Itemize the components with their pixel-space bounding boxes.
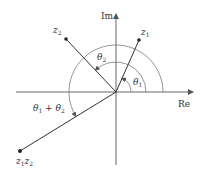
- z1z2-vector: [20, 92, 116, 151]
- theta1-arc: [122, 78, 131, 92]
- z2-vector: [66, 39, 116, 92]
- theta-sum-label: θ1 + θ2: [33, 104, 65, 114]
- z1z2-point: [18, 149, 22, 153]
- z1-point: [137, 38, 141, 42]
- imaginary-axis-label: Im: [101, 12, 113, 21]
- diagram-canvas: [0, 0, 203, 174]
- z2-point: [64, 37, 68, 41]
- z2-label: z2: [53, 26, 62, 36]
- z1z2-label: z1z2: [16, 157, 33, 167]
- z1-label: z1: [141, 28, 150, 38]
- theta1-label: θ1: [133, 78, 142, 88]
- theta2-label: θ2: [97, 53, 106, 63]
- real-axis-label: Re: [178, 100, 190, 109]
- complex-multiplication-diagram: Im Re z1 z2 z1z2 θ1 θ2 θ1 + θ2: [0, 0, 203, 174]
